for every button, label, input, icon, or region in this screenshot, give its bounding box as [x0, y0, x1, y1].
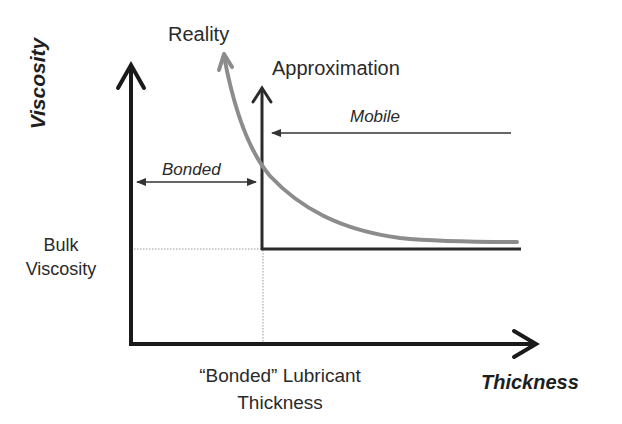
bonded-thickness-label-line1: “Bonded” Lubricant — [150, 363, 410, 390]
bonded-thickness-label: “Bonded” Lubricant Thickness — [150, 363, 410, 416]
mobile-region-arrow — [271, 129, 511, 137]
reality-label: Reality — [168, 24, 229, 44]
viscosity-thickness-diagram: Viscosity Reality Approximation Mobile B… — [0, 0, 622, 424]
x-axis-arrow — [129, 331, 536, 357]
y-axis-arrow — [118, 65, 144, 346]
approximation-label: Approximation — [272, 58, 400, 78]
x-axis-label: Thickness — [481, 372, 579, 392]
mobile-region-label: Mobile — [350, 108, 400, 125]
reality-curve — [219, 54, 517, 242]
y-axis-label: Viscosity — [8, 28, 68, 138]
bulk-viscosity-label: Bulk Viscosity — [22, 233, 100, 282]
bonded-region-label: Bonded — [162, 161, 221, 178]
y-axis-label-text: Viscosity — [28, 37, 49, 128]
bulk-viscosity-label-line1: Bulk — [22, 233, 100, 257]
bulk-viscosity-label-line2: Viscosity — [22, 257, 100, 281]
bonded-region-arrow — [136, 178, 257, 186]
bonded-thickness-label-line2: Thickness — [150, 390, 410, 417]
